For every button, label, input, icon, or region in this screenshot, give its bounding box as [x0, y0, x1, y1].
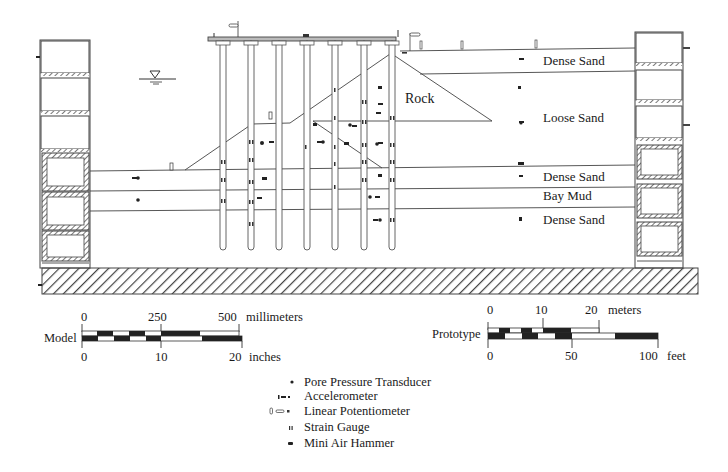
label-dense-sand-mid: Dense Sand [543, 169, 605, 184]
block-icon [288, 442, 293, 445]
ground-surface-right [400, 48, 635, 51]
capsule-icon [270, 408, 290, 414]
svg-text:Mini Air Hammer: Mini Air Hammer [304, 436, 395, 450]
dot-icon [290, 380, 293, 383]
label-loose-sand: Loose Sand [543, 110, 605, 125]
svg-text:0: 0 [81, 350, 87, 364]
pile-cap [208, 21, 537, 54]
pile-3 [272, 41, 286, 250]
pile-1 [216, 41, 230, 250]
legend: Pore Pressure Transducer Accelerometer L… [270, 375, 432, 450]
soil-instruments [132, 58, 524, 222]
double-tick-icon [289, 426, 293, 430]
dense-loose-boundary [420, 71, 635, 74]
svg-text:Linear Potentiometer: Linear Potentiometer [304, 404, 411, 418]
svg-text:10: 10 [155, 350, 168, 364]
centrifuge-model-diagram: Dense Sand Loose Sand Dense Sand Bay Mud… [0, 0, 728, 472]
pile-4 [300, 41, 314, 250]
legend-item-pore-pressure-transducer: Pore Pressure Transducer [290, 375, 432, 389]
svg-text:inches: inches [249, 350, 281, 364]
label-rock: Rock [405, 91, 435, 106]
label-dense-sand-bottom: Dense Sand [543, 212, 605, 227]
svg-text:20: 20 [229, 350, 242, 364]
pile-7 [385, 41, 399, 250]
svg-text:Accelerometer: Accelerometer [304, 389, 378, 403]
svg-text:0: 0 [81, 310, 87, 324]
svg-text:Prototype: Prototype [432, 327, 481, 341]
svg-text:10: 10 [535, 303, 548, 317]
pile-6 [357, 41, 371, 250]
label-bay-mud: Bay Mud [543, 188, 592, 203]
legend-item-mini-air-hammer: Mini Air Hammer [288, 436, 395, 450]
svg-text:Strain Gauge: Strain Gauge [304, 420, 370, 434]
rock-fill-triangle [313, 54, 492, 121]
label-dense-sand-top: Dense Sand [543, 53, 605, 68]
svg-text:Model: Model [44, 331, 77, 345]
legend-item-linear-potentiometer: Linear Potentiometer [270, 404, 411, 418]
svg-text:Pore Pressure Transducer: Pore Pressure Transducer [304, 375, 432, 389]
svg-text:20: 20 [585, 303, 598, 317]
svg-text:0: 0 [487, 303, 493, 317]
svg-text:millimeters: millimeters [246, 310, 303, 324]
right-wall [635, 32, 690, 268]
piles [216, 41, 399, 250]
svg-text:0: 0 [487, 349, 493, 363]
legend-item-accelerometer: Accelerometer [278, 389, 378, 403]
svg-text:50: 50 [565, 349, 578, 363]
pile-2 [244, 41, 258, 250]
svg-text:500: 500 [218, 310, 237, 324]
left-wall [36, 40, 90, 286]
prototype-scale-bar: 0 10 20 meters Prototype 0 50 100 feet [432, 303, 686, 363]
dash-icon [278, 395, 290, 399]
svg-text:feet: feet [667, 349, 686, 363]
svg-text:250: 250 [148, 310, 167, 324]
water-table-icon [139, 71, 176, 84]
svg-text:meters: meters [608, 303, 641, 317]
legend-item-strain-gauge: Strain Gauge [289, 420, 370, 434]
svg-text:100: 100 [639, 349, 658, 363]
layer-labels: Dense Sand Loose Sand Dense Sand Bay Mud… [405, 53, 605, 227]
container-base [42, 268, 698, 294]
model-scale-bar: 0 250 500 millimeters Model 0 10 20 inch… [44, 310, 303, 364]
